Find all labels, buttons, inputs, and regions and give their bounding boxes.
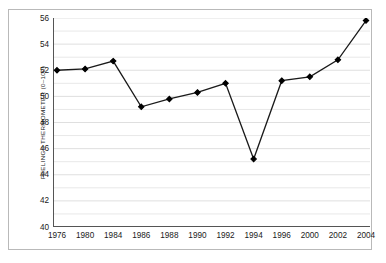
data-series-line bbox=[57, 21, 366, 159]
x-axis-tick-labels: 1976198019841986198819901992199419962000… bbox=[53, 231, 370, 245]
plot-area: FEELINGS THERMOMETER (0–100) bbox=[53, 18, 370, 227]
y-axis-title: FEELINGS THERMOMETER (0–100) bbox=[36, 18, 50, 227]
x-tick-label: 2004 bbox=[349, 231, 383, 241]
chart-figure: 404244464850525456 FEELINGS THERMOMETER … bbox=[0, 0, 386, 263]
data-point-markers bbox=[54, 18, 368, 162]
line-chart-svg bbox=[53, 18, 370, 227]
